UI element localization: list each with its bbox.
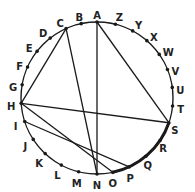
point-label-l: L <box>54 170 61 181</box>
point-label-k: K <box>35 158 44 169</box>
point-label-u: U <box>176 85 184 96</box>
point-label-w: W <box>163 47 174 58</box>
point-label-q: Q <box>144 160 153 171</box>
point-label-f: F <box>16 61 23 72</box>
point-l <box>60 163 64 167</box>
point-label-c: C <box>56 18 63 29</box>
point-p <box>127 165 131 169</box>
point-m <box>77 170 81 174</box>
chord-a-s <box>97 22 169 123</box>
point-label-r: R <box>159 143 167 154</box>
point-f <box>26 65 30 69</box>
point-q <box>144 154 148 158</box>
point-c <box>64 27 68 31</box>
point-label-i: I <box>14 121 18 132</box>
point-label-z: Z <box>116 12 123 23</box>
point-y <box>131 29 135 33</box>
point-h <box>19 102 23 106</box>
point-x <box>145 39 149 43</box>
point-label-p: P <box>126 173 133 184</box>
point-i <box>23 120 27 124</box>
point-r <box>158 139 162 143</box>
point-w <box>157 53 161 57</box>
point-v <box>166 68 170 72</box>
point-label-s: S <box>171 125 178 136</box>
point-d <box>48 36 52 40</box>
point-label-o: O <box>109 178 118 189</box>
point-label-t: T <box>177 104 184 115</box>
chord-c-n <box>66 29 97 174</box>
point-o <box>111 171 115 175</box>
point-label-b: B <box>75 12 83 23</box>
point-j <box>31 138 35 142</box>
point-label-y: Y <box>134 20 143 31</box>
point-label-m: M <box>72 178 82 189</box>
point-k <box>43 152 47 156</box>
point-label-v: V <box>172 66 180 77</box>
point-label-n: N <box>93 180 101 191</box>
point-label-x: X <box>150 32 158 43</box>
circle-chord-diagram: AZYXWVUTSRQPONMLKJIHGFEDCB <box>0 0 195 192</box>
point-label-j: J <box>22 141 27 152</box>
point-label-a: A <box>93 10 101 21</box>
point-e <box>35 49 39 53</box>
point-u <box>170 86 174 90</box>
point-t <box>171 104 175 108</box>
point-label-d: D <box>39 28 47 39</box>
point-s <box>167 121 171 125</box>
point-label-h: H <box>7 101 15 112</box>
point-n <box>95 172 99 176</box>
point-label-g: G <box>9 82 17 93</box>
point-labels: AZYXWVUTSRQPONMLKJIHGFEDCB <box>7 10 184 191</box>
point-label-e: E <box>26 43 33 54</box>
point-g <box>20 83 24 87</box>
